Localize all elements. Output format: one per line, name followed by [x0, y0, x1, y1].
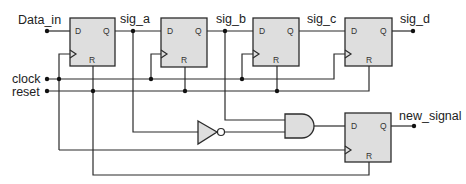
- label-data-in: Data_in: [18, 13, 61, 27]
- junction-reset-ff2: [183, 89, 187, 93]
- wire-clock-ff1: [59, 54, 70, 150]
- pin-r: R: [366, 151, 372, 161]
- pin-d: D: [351, 121, 357, 131]
- flip-flop-5: D Q R: [345, 113, 391, 162]
- junction-clock-ff1: [57, 77, 61, 81]
- label-sig-c: sig_c: [307, 12, 336, 26]
- terminal-clock: [45, 77, 49, 81]
- pin-r: R: [273, 55, 279, 65]
- terminal-data-in: [45, 29, 49, 33]
- flip-flop-2: D Q R: [161, 18, 207, 67]
- pin-d: D: [259, 26, 265, 36]
- inverter-bubble-icon: [218, 129, 225, 136]
- and-gate: [285, 114, 314, 138]
- terminal-new-signal: [412, 124, 416, 128]
- pin-r: R: [181, 55, 187, 65]
- not-gate-triangle-icon: [198, 121, 217, 144]
- pin-r: R: [366, 55, 372, 65]
- not-gate: [198, 121, 225, 144]
- flip-flop-4: D Q R: [345, 18, 392, 66]
- junction-sig-b: [223, 29, 227, 33]
- label-reset: reset: [12, 85, 40, 99]
- and-gate-icon: [285, 114, 314, 138]
- wire-clock-ff3: [242, 54, 253, 79]
- pin-q: Q: [380, 121, 387, 131]
- terminal-reset: [45, 89, 49, 93]
- junction-clock-ff3: [240, 77, 244, 81]
- flip-flop-1: D Q R: [70, 18, 115, 66]
- label-sig-d: sig_d: [400, 12, 430, 26]
- pin-q: Q: [195, 26, 202, 36]
- junction-reset-ff1: [91, 89, 95, 93]
- flip-flop-3: D Q R: [253, 18, 299, 66]
- pin-d: D: [167, 26, 173, 36]
- circuit-schematic: D Q R D Q R D Q R D Q R D Q R D: [0, 0, 466, 184]
- pin-r: R: [89, 55, 95, 65]
- pin-q: Q: [380, 26, 387, 36]
- junction-sig-a: [131, 29, 135, 33]
- wire-clock-ff2: [151, 54, 161, 79]
- label-sig-a: sig_a: [120, 12, 150, 26]
- pin-q: Q: [287, 26, 294, 36]
- label-clock: clock: [12, 72, 41, 86]
- junction-clock-ff2: [149, 77, 153, 81]
- pin-q: Q: [103, 26, 110, 36]
- pin-d: D: [75, 26, 81, 36]
- terminal-sig-d: [411, 29, 415, 33]
- pin-d: D: [351, 26, 357, 36]
- label-sig-b: sig_b: [216, 12, 246, 26]
- label-new-signal: new_signal: [399, 109, 462, 123]
- junction-reset-ff3: [275, 89, 279, 93]
